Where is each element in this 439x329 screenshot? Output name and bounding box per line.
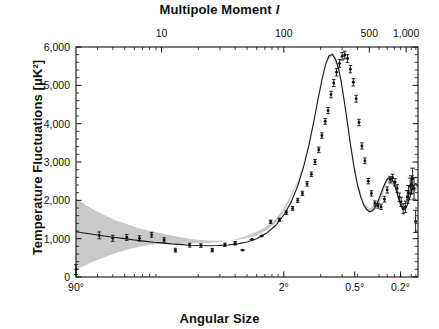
data-marker (367, 180, 370, 183)
data-point (363, 158, 367, 164)
data-marker (317, 148, 320, 151)
data-point (354, 95, 358, 102)
data-marker (335, 71, 338, 74)
data-point (346, 55, 350, 63)
data-marker (269, 220, 272, 223)
data-point (188, 243, 192, 247)
data-marker (402, 207, 405, 210)
data-point (210, 248, 214, 251)
data-marker (400, 200, 403, 203)
data-marker (386, 189, 389, 192)
cmb-power-spectrum-figure: Multipole Momentl Angular Size Temperatu… (0, 0, 439, 329)
data-point (379, 204, 383, 209)
data-marker (352, 81, 355, 84)
data-point (285, 211, 289, 215)
data-point (301, 191, 305, 195)
data-marker (396, 187, 399, 190)
data-marker (211, 249, 214, 252)
data-marker (98, 234, 101, 237)
data-marker (341, 55, 344, 58)
data-marker (404, 205, 407, 208)
plot-canvas (0, 0, 439, 329)
data-point (291, 206, 295, 210)
data-marker (174, 249, 177, 252)
data-marker (380, 205, 383, 208)
data-point (413, 210, 418, 232)
data-marker (330, 93, 333, 96)
data-point (335, 69, 339, 76)
data-point (360, 143, 364, 149)
data-marker (355, 97, 358, 100)
data-marker (363, 159, 366, 162)
data-marker (327, 109, 330, 112)
data-marker (314, 161, 317, 164)
data-marker (349, 68, 352, 71)
data-point (332, 80, 336, 87)
data-marker (285, 211, 288, 214)
data-marker (338, 62, 341, 65)
data-marker (296, 199, 299, 202)
data-point (317, 147, 321, 152)
data-point (370, 191, 374, 196)
data-point (305, 182, 309, 187)
data-marker (358, 121, 361, 124)
data-marker (394, 181, 397, 184)
data-point (310, 172, 314, 177)
data-marker (111, 237, 114, 240)
data-marker (291, 207, 294, 210)
model-curve-0 (76, 55, 418, 246)
data-point (296, 198, 300, 202)
data-marker (373, 202, 376, 205)
data-marker (301, 192, 304, 195)
data-point (174, 248, 178, 252)
data-point (323, 118, 327, 124)
data-marker (241, 249, 244, 252)
data-point (329, 91, 333, 98)
data-marker (324, 120, 327, 123)
data-marker (346, 57, 349, 60)
data-marker (389, 178, 392, 181)
data-marker (383, 198, 386, 201)
data-marker (163, 239, 166, 242)
data-point (366, 178, 370, 183)
data-marker (414, 220, 417, 223)
data-marker (310, 173, 313, 176)
data-marker (199, 244, 202, 247)
data-marker (150, 233, 153, 236)
data-marker (321, 134, 324, 137)
data-point (385, 187, 389, 193)
data-point (326, 108, 330, 114)
data-marker (188, 244, 191, 247)
data-marker (138, 237, 141, 240)
data-marker (234, 242, 237, 245)
data-marker (332, 82, 335, 85)
data-marker (306, 182, 309, 185)
model-curve-group (76, 55, 418, 246)
data-point (320, 133, 324, 138)
data-point (313, 160, 317, 165)
data-marker (377, 204, 380, 207)
data-marker (413, 187, 416, 190)
data-point (349, 66, 353, 73)
data-marker (260, 235, 263, 238)
data-point (357, 119, 361, 126)
data-point (352, 79, 356, 86)
data-marker (223, 243, 226, 246)
data-marker (278, 218, 281, 221)
data-marker (360, 144, 363, 147)
data-point (199, 244, 203, 247)
data-marker (370, 192, 373, 195)
data-point (240, 249, 244, 252)
data-marker (251, 238, 254, 241)
data-marker (125, 236, 128, 239)
data-point (383, 196, 387, 202)
data-point (223, 243, 227, 246)
